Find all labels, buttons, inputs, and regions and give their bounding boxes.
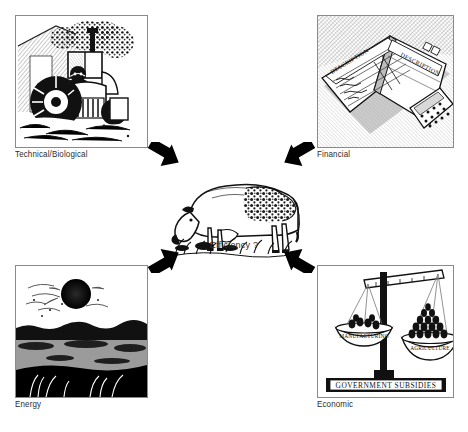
illustration-balance-scale: MANUFACTURING	[317, 265, 454, 398]
panel-caption-energy: Energy	[15, 399, 41, 409]
arrow-economic-to-center	[281, 243, 317, 273]
arrow-technical-to-center	[146, 142, 182, 172]
efficiency-influences-diagram: Technical/Biological	[0, 0, 468, 432]
svg-text:AGRICULTURE: AGRICULTURE	[410, 345, 450, 351]
svg-text:GOVERNMENT SUBSIDIES: GOVERNMENT SUBSIDIES	[336, 381, 437, 390]
svg-text:MANUFACTURING: MANUFACTURING	[339, 333, 389, 339]
panel-caption-economic: Economic	[317, 399, 353, 409]
arrow-financial-to-center	[281, 142, 317, 172]
arrow-energy-to-center	[146, 243, 182, 273]
illustration-ledger-and-calculator: DESCRIPTION	[317, 15, 454, 148]
panel-caption-financial: Financial	[317, 149, 350, 159]
panel-caption-technical-biological: Technical/Biological	[15, 149, 88, 159]
illustration-sun-over-field	[15, 265, 148, 398]
illustration-tractor	[15, 15, 148, 148]
